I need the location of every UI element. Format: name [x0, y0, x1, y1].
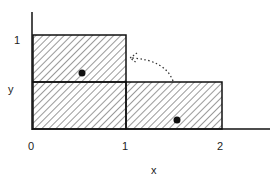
x-axis-label: x — [151, 164, 157, 176]
dotted-arrow — [132, 58, 173, 81]
x-tick-1: 1 — [122, 140, 128, 152]
x-tick-2: 2 — [217, 140, 223, 152]
x-tick-0: 0 — [28, 140, 34, 152]
y-tick-1: 1 — [14, 34, 20, 46]
lower-right-box — [126, 82, 222, 129]
y-axis-label: y — [8, 83, 14, 95]
lower-left-box — [33, 82, 126, 129]
dot-upper-left — [79, 70, 86, 77]
diagram-canvas: 1 y 0 1 2 x — [0, 0, 277, 186]
dot-lower-right — [174, 117, 181, 124]
